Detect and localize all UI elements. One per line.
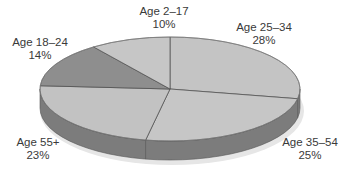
label-age-2-17-pct: 10%	[139, 18, 188, 31]
label-age-18-24-pct: 14%	[12, 49, 68, 62]
label-age-18-24-name: Age 18–24	[12, 36, 68, 49]
label-age-55-plus-pct: 23%	[16, 149, 59, 162]
label-age-35-54-pct: 25%	[282, 149, 338, 162]
label-age-55-plus: Age 55+ 23%	[16, 136, 59, 162]
label-age-35-54-name: Age 35–54	[282, 136, 338, 149]
label-age-35-54: Age 35–54 25%	[282, 136, 338, 162]
label-age-18-24: Age 18–24 14%	[12, 36, 68, 62]
label-age-55-plus-name: Age 55+	[16, 136, 59, 149]
label-age-25-34-name: Age 25–34	[236, 21, 292, 34]
label-age-2-17: Age 2–17 10%	[139, 5, 188, 31]
label-age-2-17-name: Age 2–17	[139, 5, 188, 18]
label-age-25-34-pct: 28%	[236, 34, 292, 47]
label-age-25-34: Age 25–34 28%	[236, 21, 292, 47]
